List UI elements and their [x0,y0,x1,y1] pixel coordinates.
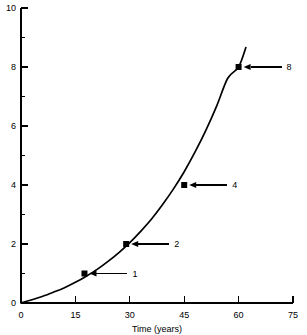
annotation-label: 1 [132,269,137,279]
data-point-marker [236,64,242,70]
annotation-label: 8 [287,62,292,72]
x-tick-label: 60 [234,310,244,320]
data-point-marker [81,271,87,277]
y-tick-label: 10 [6,3,16,13]
chart-canvas: 0246810 01530456075 Time (years) 1248 [0,0,307,335]
y-tick-label: 8 [11,62,16,72]
y-tick-label: 6 [11,121,16,131]
x-axis-title: Time (years) [132,324,182,334]
y-tick-label: 0 [11,298,16,308]
annotation-label: 2 [174,239,179,249]
x-tick-label: 75 [288,310,298,320]
annotation-label: 4 [232,180,237,190]
chart-background [0,0,307,335]
x-tick-label: 30 [125,310,135,320]
exponential-growth-chart: 0246810 01530456075 Time (years) 1248 [0,0,307,335]
y-tick-label: 4 [11,180,16,190]
data-point-marker [181,182,187,188]
y-tick-label: 2 [11,239,16,249]
x-tick-label: 45 [179,310,189,320]
data-point-marker [123,241,129,247]
x-tick-label: 0 [18,310,23,320]
x-tick-label: 15 [70,310,80,320]
